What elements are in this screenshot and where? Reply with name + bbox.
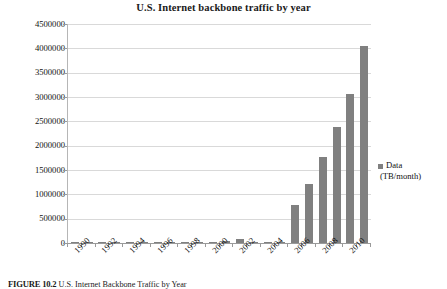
- bar-2008: [319, 157, 327, 243]
- figure-number: FIGURE 10.2: [8, 279, 56, 289]
- y-axis-tick-mark: [63, 146, 67, 147]
- bar-2010: [346, 94, 354, 243]
- y-axis-tick-mark: [63, 121, 67, 122]
- y-axis-tick-label: 2500000: [1, 117, 65, 126]
- bar-2011: [360, 46, 368, 243]
- y-axis-tick-label: 500000: [1, 214, 65, 223]
- gridline: [68, 97, 371, 98]
- y-axis-tick-label: 2000000: [1, 141, 65, 150]
- y-axis-tick-mark: [63, 97, 67, 98]
- x-axis-labels: 1990199219941996199820002002200420062008…: [0, 246, 447, 280]
- bar-2006: [291, 205, 299, 243]
- figure-caption: FIGURE 10.2 U.S. Internet Backbone Traff…: [8, 279, 447, 289]
- gridline: [68, 121, 371, 122]
- y-axis-tick-mark: [63, 170, 67, 171]
- y-axis-tick-label: 1000000: [1, 190, 65, 199]
- bar-2009: [333, 127, 341, 243]
- y-axis-tick-label: 3500000: [1, 68, 65, 77]
- y-axis-tick-label: 1500000: [1, 166, 65, 175]
- legend-label-units: (TB/month): [380, 171, 447, 182]
- y-axis-tick-label: 4500000: [1, 20, 65, 29]
- legend-label-data: Data: [386, 160, 402, 170]
- y-axis-tick-mark: [63, 73, 67, 74]
- y-axis-tick-mark: [63, 24, 67, 25]
- chart-title: U.S. Internet backbone traffic by year: [0, 2, 447, 13]
- y-axis-tick-mark: [63, 219, 67, 220]
- plot-area: [67, 24, 370, 243]
- y-axis-tick-label: 3000000: [1, 93, 65, 102]
- figure-caption-text: U.S. Internet Backbone Traffic by Year: [58, 280, 186, 289]
- gridline: [68, 24, 371, 25]
- y-axis-tick-mark: [63, 48, 67, 49]
- y-axis-tick-label: 4000000: [1, 44, 65, 53]
- bar-2007: [305, 184, 313, 243]
- gridline: [68, 146, 371, 147]
- gridline: [68, 48, 371, 49]
- legend-swatch-data: [378, 164, 383, 169]
- y-axis-tick-mark: [63, 194, 67, 195]
- gridline: [68, 73, 371, 74]
- chart-legend: Data (TB/month): [378, 160, 447, 182]
